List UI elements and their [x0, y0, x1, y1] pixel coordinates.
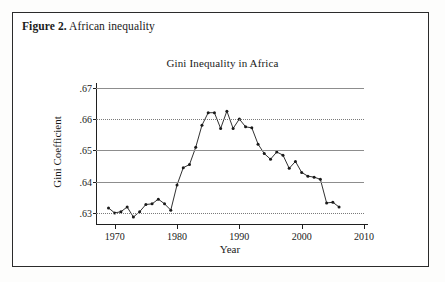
data-point-marker: [281, 154, 284, 157]
gridline-64: [96, 182, 364, 183]
data-point-marker: [213, 111, 216, 114]
data-point-marker: [306, 175, 309, 178]
gridline-63: [96, 213, 364, 214]
series-line: [108, 111, 339, 217]
data-point-marker: [331, 201, 334, 204]
data-point-marker: [200, 124, 203, 127]
gridline-67: [96, 88, 364, 89]
y-axis-title: Gini Coefficient: [51, 116, 63, 188]
data-point-marker: [300, 171, 303, 174]
plot-area: [96, 86, 364, 218]
data-point-marker: [319, 178, 322, 181]
data-point-marker: [244, 125, 247, 128]
x-tick-label: 2010: [354, 231, 374, 242]
data-point-marker: [250, 126, 253, 129]
figure-page: Figure 2. African inequality Gini Inequa…: [0, 0, 445, 282]
gini-line-series: [96, 86, 364, 218]
data-point-marker: [325, 201, 328, 204]
x-tick-label: 1980: [167, 231, 187, 242]
data-point-marker: [144, 203, 147, 206]
x-tick-label: 1990: [229, 231, 249, 242]
data-point-marker: [232, 127, 235, 130]
data-point-marker: [219, 127, 222, 130]
figure-caption-label: Figure 2.: [22, 20, 67, 32]
data-point-marker: [132, 216, 135, 219]
data-point-marker: [194, 146, 197, 149]
data-point-marker: [313, 176, 316, 179]
data-point-marker: [188, 163, 191, 166]
figure-caption: Figure 2. African inequality: [22, 20, 155, 32]
gridline-66: [96, 119, 364, 120]
x-tick: [177, 225, 178, 229]
data-point-marker: [169, 209, 172, 212]
data-point-marker: [126, 206, 129, 209]
chart-title: Gini Inequality in Africa: [0, 57, 445, 69]
data-point-marker: [207, 111, 210, 114]
x-tick-label: 2000: [292, 231, 312, 242]
data-point-marker: [225, 110, 228, 113]
data-point-marker: [269, 158, 272, 161]
x-axis-spine: 19701980199020002010: [96, 224, 368, 225]
x-tick: [115, 225, 116, 229]
x-tick: [239, 225, 240, 229]
y-tick-label: .64: [80, 176, 93, 187]
y-tick-label: .66: [80, 114, 93, 125]
x-tick: [364, 225, 365, 229]
data-point-marker: [157, 198, 160, 201]
data-point-marker: [176, 184, 179, 187]
data-point-marker: [338, 206, 341, 209]
x-tick: [302, 225, 303, 229]
y-tick-label: .65: [80, 145, 93, 156]
data-point-marker: [182, 166, 185, 169]
data-point-marker: [263, 152, 266, 155]
data-point-marker: [257, 143, 260, 146]
data-point-marker: [163, 202, 166, 205]
data-point-marker: [288, 167, 291, 170]
gridline-65: [96, 150, 364, 151]
x-axis-title: Year: [220, 243, 240, 255]
figure-caption-text: African inequality: [67, 20, 155, 32]
x-tick-label: 1970: [105, 231, 125, 242]
y-tick-label: .67: [80, 82, 93, 93]
data-point-marker: [107, 206, 110, 209]
data-point-marker: [294, 160, 297, 163]
y-tick-label: .63: [80, 208, 93, 219]
data-point-marker: [151, 202, 154, 205]
